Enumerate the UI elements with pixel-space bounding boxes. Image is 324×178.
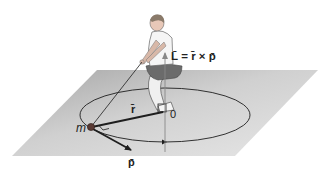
position-vector-label: r̄: [131, 104, 135, 115]
angular-momentum-label: L̄ = r̄ × p̄: [171, 51, 216, 63]
momentum-vector-label: p̄: [128, 157, 135, 168]
origin-label: 0: [170, 109, 176, 120]
mass-ball: [87, 123, 94, 130]
angular-momentum-diagram: [0, 0, 324, 178]
mass-label: m: [76, 122, 86, 134]
